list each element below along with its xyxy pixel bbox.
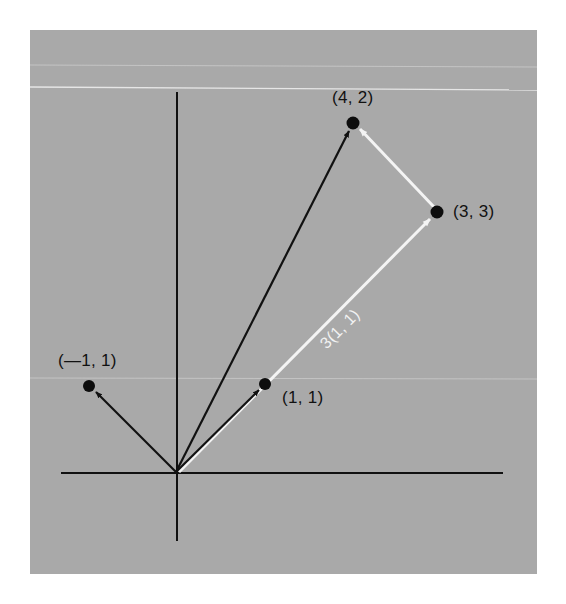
- white-vectors: [179, 129, 434, 472]
- label-4-2: (4, 2): [332, 89, 373, 106]
- vector-diagram: (—1, 1) (1, 1) (3, 3) (4, 2) 3(1, 1): [0, 0, 566, 604]
- points: [83, 117, 444, 393]
- black-vectors: [96, 131, 349, 472]
- vector-3-1-1: [179, 219, 430, 472]
- label-3-3: (3, 3): [453, 203, 494, 220]
- label-1-1: (1, 1): [282, 389, 323, 406]
- point-1-1: [259, 378, 271, 390]
- point-neg1-1: [83, 380, 95, 392]
- vector-1-1: [176, 390, 259, 472]
- point-4-2: [347, 117, 360, 130]
- vector-neg1-1: [96, 392, 176, 472]
- scan-lines: [30, 65, 537, 379]
- point-3-3: [431, 206, 444, 219]
- diagram-canvas: [0, 0, 566, 604]
- axes: [61, 92, 503, 541]
- vector-4-2: [176, 131, 349, 472]
- vector-3-3-to-4-2: [360, 129, 434, 207]
- label-neg1-1: (—1, 1): [58, 352, 117, 369]
